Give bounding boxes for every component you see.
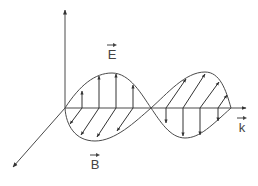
em-wave-diagram [0, 0, 258, 186]
depth-axis [13, 108, 65, 167]
b-field-label: B [88, 158, 102, 171]
e-field-label: E [105, 48, 119, 61]
e-field-wave [65, 73, 231, 138]
vector-arrow-icon [90, 153, 100, 157]
k-vector-label: k [236, 121, 248, 134]
vector-arrow-icon [237, 116, 247, 120]
e-field-vectors [82, 74, 218, 136]
b-field-wave [65, 72, 231, 141]
b-field-vectors [70, 74, 227, 137]
vector-arrow-icon [107, 43, 117, 47]
